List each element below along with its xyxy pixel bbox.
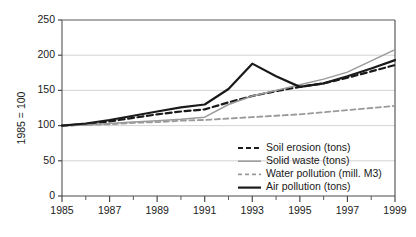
legend-label-2: Water pollution (mill. M3) — [266, 167, 382, 179]
x-tick-label: 1999 — [383, 204, 407, 216]
legend-label-3: Air pollution (tons) — [266, 180, 351, 192]
y-tick-label: 0 — [49, 189, 55, 201]
x-tick-label: 1993 — [241, 204, 265, 216]
x-tick-label: 1985 — [50, 204, 74, 216]
legend-label-0: Soil erosion (tons) — [266, 141, 351, 153]
line-chart: 050100150200250 198519871989199119931995… — [0, 0, 416, 237]
x-tick-label: 1989 — [145, 204, 169, 216]
y-axis-title: 1985 = 100 — [15, 91, 27, 144]
chart-container: 050100150200250 198519871989199119931995… — [0, 0, 416, 237]
x-tick-label: 1991 — [193, 204, 217, 216]
x-tick-label: 1997 — [336, 204, 360, 216]
y-tick-label: 200 — [37, 48, 55, 60]
y-tick-label: 100 — [37, 118, 55, 130]
x-tick-label: 1987 — [98, 204, 122, 216]
y-tick-label: 250 — [37, 13, 55, 25]
y-tick-label: 50 — [43, 154, 55, 166]
y-tick-label: 150 — [37, 83, 55, 95]
legend-label-1: Solid waste (tons) — [266, 154, 349, 166]
x-tick-label: 1995 — [288, 204, 312, 216]
